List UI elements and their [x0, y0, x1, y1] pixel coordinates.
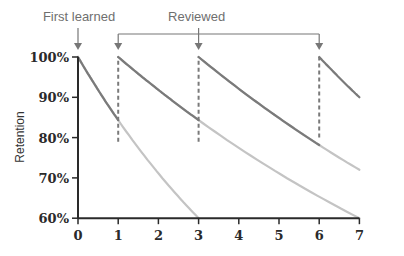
x-tick-label: 3 [194, 228, 203, 243]
reviewed-arrow-icon [114, 43, 122, 50]
first-learned-label: First learned [43, 9, 115, 24]
curves [78, 57, 359, 218]
reviewed-arrow-icon [315, 43, 323, 50]
x-tick-label: 7 [355, 228, 364, 243]
y-tick-label: 80% [39, 131, 70, 146]
curve-1-faded [78, 57, 199, 218]
x-tick-label: 4 [234, 228, 243, 243]
x-tick-label: 1 [114, 228, 123, 243]
curve-2-active [118, 57, 198, 120]
x-tick-label: 5 [274, 228, 283, 243]
reviewed-arrow-icon [195, 43, 203, 50]
first-learned-arrow-icon [74, 43, 82, 50]
y-axis-label: Retention [13, 111, 27, 162]
curve-2-faded [118, 57, 359, 218]
retention-chart: First learnedReviewed 60%70%80%90%100%01… [0, 0, 404, 256]
x-tick-label: 0 [73, 228, 82, 243]
reviewed-label: Reviewed [168, 9, 225, 24]
y-tick-label: 60% [39, 211, 70, 226]
x-tick-label: 2 [154, 228, 163, 243]
y-tick-label: 100% [30, 50, 70, 65]
axes: 60%70%80%90%100%01234567 [30, 50, 364, 243]
x-tick-label: 6 [315, 228, 324, 243]
y-tick-label: 70% [39, 171, 70, 186]
curve-1-active [78, 57, 118, 120]
y-tick-label: 90% [39, 90, 70, 105]
curve-4-active [319, 57, 359, 97]
annotations: First learnedReviewed [43, 9, 323, 50]
